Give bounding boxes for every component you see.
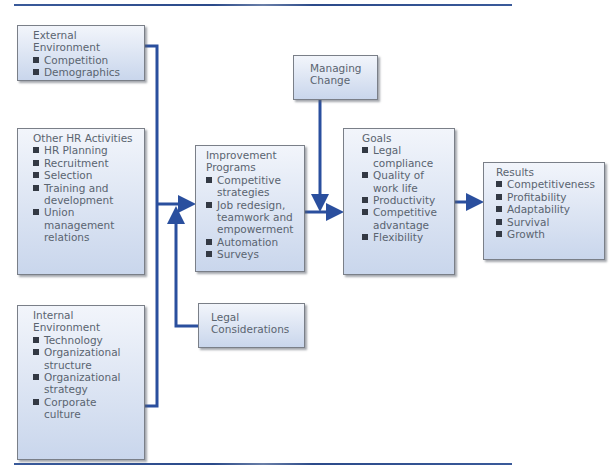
list-item: Automation: [206, 236, 298, 248]
list-item: Competitive advantage: [362, 206, 451, 231]
results-title: Results: [496, 166, 598, 178]
list-item: Legal compliance: [362, 144, 443, 169]
list-item: Surveys: [206, 248, 298, 260]
list-item: Recruitment: [33, 157, 138, 169]
list-item: Technology: [33, 334, 138, 346]
managing-change-title-line1: Managing: [310, 62, 371, 74]
list-item: Adaptability: [496, 203, 598, 215]
list-item: Competitiveness: [496, 178, 598, 190]
list-item: Demographics: [33, 66, 138, 78]
other-hr-activities-box: Other HR Activities HR Planning Recruitm…: [17, 128, 145, 275]
list-item: Growth: [496, 228, 598, 240]
legal-considerations-box: Legal Considerations: [198, 303, 305, 348]
list-item: Competitive strategies: [206, 174, 295, 199]
list-item: Profitability: [496, 191, 598, 203]
list-item: Corporate culture: [33, 396, 114, 421]
results-list: Competitiveness Profitability Adaptabili…: [496, 178, 598, 240]
list-item: Training and development: [33, 182, 122, 207]
internal-title-line1: Internal: [33, 309, 138, 321]
main-vertical-connector: [145, 46, 157, 406]
improvement-list: Competitive strategies Job redesign, tea…: [206, 174, 298, 261]
list-item: Selection: [33, 169, 138, 181]
list-item: Job redesign, teamwork and empowerment: [206, 199, 303, 236]
other-hr-list: HR Planning Recruitment Selection Traini…: [33, 144, 138, 243]
managing-change-title-line2: Change: [310, 74, 371, 86]
external-title-line1: External: [33, 29, 138, 41]
legal-title-line1: Legal: [211, 311, 298, 323]
list-item: Organizational strategy: [33, 371, 134, 396]
improvement-programs-box: Improvement Programs Competitive strateg…: [195, 145, 305, 272]
goals-list: Legal compliance Quality of work life Pr…: [362, 144, 448, 243]
internal-title-line2: Environment: [33, 321, 138, 333]
legal-title-line2: Considerations: [211, 323, 298, 335]
other-hr-title: Other HR Activities: [33, 132, 138, 144]
list-item: Organizational structure: [33, 346, 134, 371]
list-item: Union management relations: [33, 206, 122, 243]
improvement-title-line1: Improvement: [206, 149, 298, 161]
goals-title: Goals: [362, 132, 448, 144]
external-list: Competition Demographics: [33, 54, 138, 79]
managing-change-box: Managing Change: [293, 55, 378, 100]
list-item: Flexibility: [362, 231, 448, 243]
external-title-line2: Environment: [33, 41, 138, 53]
list-item: HR Planning: [33, 144, 138, 156]
internal-list: Technology Organizational structure Orga…: [33, 334, 138, 421]
internal-environment-box: Internal Environment Technology Organiza…: [17, 305, 145, 460]
list-item: Survival: [496, 216, 598, 228]
list-item: Productivity: [362, 194, 448, 206]
goals-box: Goals Legal compliance Quality of work l…: [343, 128, 455, 275]
external-environment-box: External Environment Competition Demogra…: [17, 25, 145, 81]
list-item: Quality of work life: [362, 169, 433, 194]
bottom-rule: [14, 463, 512, 465]
list-item: Competition: [33, 54, 138, 66]
improvement-title-line2: Programs: [206, 161, 298, 173]
results-box: Results Competitiveness Profitability Ad…: [483, 162, 605, 260]
